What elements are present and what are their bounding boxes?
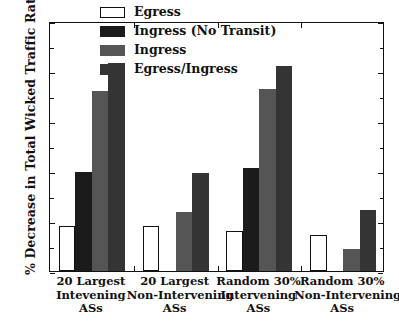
x-group-label-1: 20 LargestNon-InterveningASs (127, 275, 223, 316)
y-tick-20 (50, 173, 55, 174)
bar-0-2 (92, 91, 109, 271)
bar-3-2 (343, 249, 360, 271)
x-group-label-3-line-0: Random 30% (294, 275, 390, 289)
y-minor-tick-right-15 (380, 198, 384, 199)
legend-swatch-icon-1 (100, 26, 125, 37)
y-minor-tick-right-35 (380, 98, 384, 99)
legend-swatch-icon-3 (100, 64, 125, 75)
legend-label-3: Egress/Ingress (134, 62, 238, 76)
x-group-label-1-line-1: Non-Intervening (127, 289, 223, 303)
y-tick-50 (50, 23, 55, 24)
legend-item-1: Ingress (No Transit) (100, 24, 276, 38)
bar-2-0 (226, 231, 243, 271)
x-group-label-2-line-1: Intervening (211, 289, 307, 303)
legend-item-0: Egress (100, 5, 276, 19)
x-group-label-0-line-0: 20 Largest (43, 275, 139, 289)
x-tick-3 (301, 266, 302, 271)
bar-2-3 (276, 66, 293, 271)
legend-label-1: Ingress (No Transit) (134, 24, 276, 38)
bar-0-0 (59, 226, 76, 271)
bar-2-1 (243, 168, 260, 272)
y-tick-10 (50, 223, 55, 224)
legend-item-2: Ingress (100, 43, 276, 57)
y-tick-right-20 (378, 173, 383, 174)
bar-3-0 (310, 235, 327, 272)
y-minor-tick-25 (50, 148, 54, 149)
x-group-label-2-line-2: ASs (211, 302, 307, 316)
bar-1-3 (192, 173, 209, 271)
x-group-label-0-line-1: Intevening (43, 289, 139, 303)
legend-swatch-icon-0 (100, 7, 125, 18)
legend-swatch-icon-2 (100, 45, 125, 56)
y-minor-tick-right-45 (380, 48, 384, 49)
y-tick-right-40 (378, 73, 383, 74)
y-minor-tick-35 (50, 98, 54, 99)
x-group-label-3-line-1: Non-Intervening (294, 289, 390, 303)
chart-figure: % Decrease in Total Wicked Traffic Rate … (0, 0, 399, 331)
x-group-label-3-line-2: ASs (294, 302, 390, 316)
legend-item-3: Egress/Ingress (100, 62, 276, 76)
y-tick-right-10 (378, 223, 383, 224)
bar-2-2 (259, 89, 276, 272)
y-tick-right-50 (378, 23, 383, 24)
bar-0-3 (108, 63, 125, 271)
bar-1-2 (176, 212, 193, 271)
bar-1-0 (143, 226, 160, 271)
y-minor-tick-15 (50, 198, 54, 199)
x-group-label-3: Random 30%Non-InterveningASs (294, 275, 390, 316)
y-axis-title: % Decrease in Total Wicked Traffic Rate (23, 5, 41, 275)
legend-label-2: Ingress (134, 43, 186, 57)
x-tick-top-3 (301, 23, 302, 28)
legend-label-0: Egress (134, 5, 181, 19)
x-tick-2 (218, 266, 219, 271)
x-group-label-2-line-0: Random 30% (211, 275, 307, 289)
x-group-label-2: Random 30%InterveningASs (211, 275, 307, 316)
y-tick-40 (50, 73, 55, 74)
bar-0-1 (75, 172, 92, 272)
y-minor-tick-right-25 (380, 148, 384, 149)
chart-legend: EgressIngress (No Transit)IngressEgress/… (100, 5, 276, 76)
y-minor-tick-5 (50, 248, 54, 249)
y-minor-tick-45 (50, 48, 54, 49)
x-tick-1 (134, 266, 135, 271)
y-tick-0 (50, 273, 55, 274)
x-group-label-1-line-2: ASs (127, 302, 223, 316)
x-group-label-1-line-0: 20 Largest (127, 275, 223, 289)
x-group-label-0: 20 LargestInteveningASs (43, 275, 139, 316)
y-minor-tick-right-5 (380, 248, 384, 249)
x-group-label-0-line-2: ASs (43, 302, 139, 316)
y-tick-30 (50, 123, 55, 124)
bar-3-3 (360, 210, 377, 271)
y-tick-right-30 (378, 123, 383, 124)
